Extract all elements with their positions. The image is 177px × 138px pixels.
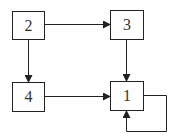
node-1-label: 1 [123,87,131,104]
node-2: 2 [13,12,45,40]
node-2-label: 2 [25,17,33,34]
graph-diagram: 2 3 4 1 [0,0,177,138]
node-1: 1 [111,82,144,111]
node-3: 3 [111,11,144,40]
node-4: 4 [13,83,45,112]
node-4-label: 4 [25,88,33,105]
node-3-label: 3 [123,16,131,33]
